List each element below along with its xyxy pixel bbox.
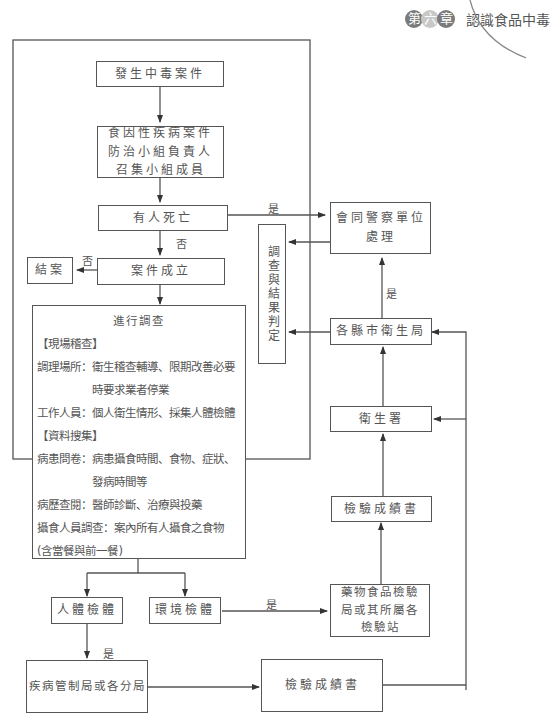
node-investigation: 進行調查 【現場稽查】 調理場所： 衛生稽查輔導、限期改善必要時要求業者停業 工… <box>32 305 246 559</box>
investigation-row: 病患問卷： 病患攝食時間、食物、症狀、發病時間等 <box>37 448 241 494</box>
row-value: 個人衛生情形、採集人體檢體 <box>92 402 241 425</box>
investigation-footnote: (含當餐與前一餐) <box>37 540 241 563</box>
investigation-row: 攝食人員調查： 案內所有人攝食之食物 <box>37 517 241 540</box>
row-key: 病患問卷： <box>37 448 92 494</box>
node-human-specimen: 人體檢體 <box>51 597 123 624</box>
node-report-lower: 檢驗成績書 <box>261 659 383 712</box>
row-value: 案內所有人攝食之食物 <box>114 517 241 540</box>
node-report-upper: 檢驗成績書 <box>331 496 432 522</box>
node-investigation-result: 調查與結果判定 <box>258 224 286 364</box>
node-start: 發生中毒案件 <box>96 61 224 87</box>
node-county-health: 各縣市衛生局 <box>330 318 432 345</box>
row-key: 病歷查閱： <box>37 494 92 517</box>
edge-label-human-yes: 是 <box>103 645 114 661</box>
node-team: 食因性疾病案件防治小組負責人召集小組成員 <box>97 126 224 178</box>
investigation-title: 進行調查 <box>37 310 241 333</box>
investigation-row: 工作人員： 個人衛生情形、採集人體檢體 <box>37 402 241 425</box>
node-env-specimen: 環境檢體 <box>149 597 221 624</box>
row-value: 醫師診斷、治療與投藥 <box>92 494 241 517</box>
node-police: 會同警察單位處理 <box>330 202 431 254</box>
edge-label-county-yes: 是 <box>386 285 397 301</box>
node-cdc: 疾病管制局或各分局 <box>26 660 148 713</box>
row-value: 衛生稽查輔導、限期改善必要時要求業者停業 <box>92 356 241 402</box>
row-value: 病患攝食時間、食物、症狀、發病時間等 <box>92 448 241 494</box>
node-closed: 結案 <box>27 257 73 284</box>
row-key: 工作人員： <box>37 402 92 425</box>
investigation-row: 調理場所： 衛生稽查輔導、限期改善必要時要求業者停業 <box>37 356 241 402</box>
node-case-established: 案件成立 <box>97 258 225 285</box>
edge-label-death-yes: 是 <box>268 200 279 216</box>
node-health-dept: 衛生署 <box>330 406 432 432</box>
investigation-row: 病歷查閱： 醫師診斷、治療與投藥 <box>37 494 241 517</box>
section-onsite: 【現場稽查】 <box>37 333 241 356</box>
node-death: 有人死亡 <box>98 205 228 231</box>
row-key: 攝食人員調查： <box>37 517 114 540</box>
section-data-collection: 【資料搜集】 <box>37 425 241 448</box>
edge-label-death-no: 否 <box>176 235 187 251</box>
edge-label-env-yes: 是 <box>266 596 277 612</box>
node-fda-lab: 藥物食品檢驗局或其所屬各檢驗站 <box>330 584 430 637</box>
row-key: 調理場所： <box>37 356 92 402</box>
edge-label-case-no: 否 <box>82 252 93 268</box>
